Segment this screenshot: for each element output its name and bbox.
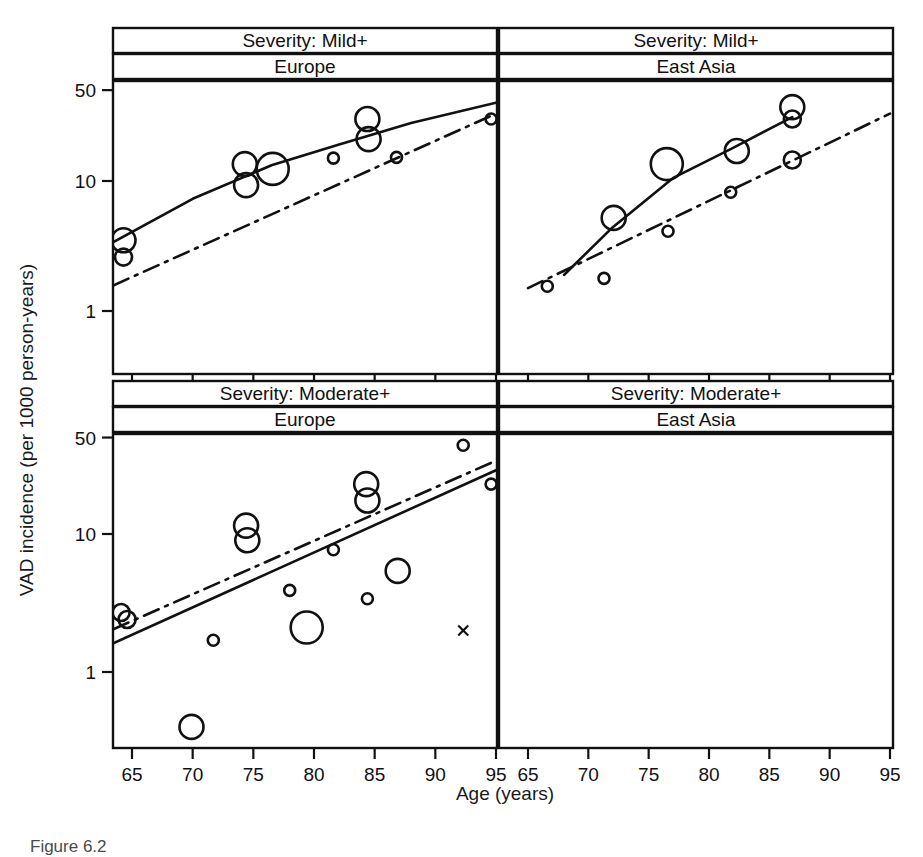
panel-moderate-europe: Severity: Moderate+Europe657075808590951… — [75, 381, 507, 785]
x-tick-label: 95 — [485, 764, 506, 785]
plot-content — [528, 95, 890, 292]
x-axis-title: Age (years) — [456, 783, 554, 804]
data-point-bubble — [651, 148, 683, 180]
fitted-incidence-line — [114, 103, 496, 242]
data-point-bubble — [180, 715, 204, 739]
figure-caption: Figure 6.2 — [30, 837, 107, 856]
data-point-bubble — [386, 559, 410, 583]
strip-severity-label: Severity: Mild+ — [242, 30, 367, 51]
chart-svg: Severity: Mild+Europe11050Severity: Mild… — [0, 0, 923, 857]
x-tick-label: 90 — [425, 764, 446, 785]
plot-frame — [113, 434, 497, 748]
panel-mild-east-asia: Severity: Mild+East Asia — [499, 28, 893, 382]
x-tick-label: 85 — [364, 764, 385, 785]
strip-severity-label: Severity: Moderate+ — [220, 383, 391, 404]
strip-region-label: East Asia — [656, 409, 736, 430]
data-point-bubble — [458, 440, 469, 451]
plot-frame — [499, 434, 893, 748]
reference-trend-line — [528, 114, 890, 289]
data-point-bubble — [328, 153, 339, 164]
fitted-incidence-line — [114, 470, 496, 643]
x-tick-label: 90 — [819, 764, 840, 785]
x-tick-label: 65 — [121, 764, 142, 785]
data-point-bubble — [355, 489, 379, 513]
data-point-bubble — [486, 114, 497, 125]
data-point-xmark — [458, 625, 468, 635]
data-point-bubble — [663, 226, 674, 237]
chart-layer: Severity: Mild+Europe11050Severity: Mild… — [16, 28, 901, 856]
y-tick-label: 50 — [75, 80, 96, 101]
reference-trend-line — [114, 114, 496, 286]
strip-region-label: Europe — [274, 56, 335, 77]
data-point-bubble — [291, 612, 323, 644]
strip-region-label: Europe — [274, 409, 335, 430]
x-tick-label: 80 — [698, 764, 719, 785]
x-tick-label: 65 — [517, 764, 538, 785]
plot-frame — [113, 81, 497, 374]
panel-mild-europe: Severity: Mild+Europe11050 — [75, 28, 497, 382]
data-point-bubble — [542, 281, 553, 292]
y-tick-label: 50 — [75, 428, 96, 449]
plot-frame — [499, 81, 893, 374]
x-tick-label: 70 — [182, 764, 203, 785]
y-tick-label: 10 — [75, 524, 96, 545]
plot-content — [113, 440, 497, 739]
data-point-bubble — [599, 273, 610, 284]
data-point-bubble — [486, 479, 497, 490]
strip-severity-label: Severity: Mild+ — [633, 30, 758, 51]
data-point-bubble — [235, 528, 259, 552]
panel-moderate-east-asia: Severity: Moderate+East Asia657075808590… — [499, 381, 901, 785]
y-tick-label: 1 — [85, 662, 96, 683]
strip-region-label: East Asia — [656, 56, 736, 77]
y-tick-label: 10 — [75, 171, 96, 192]
fitted-incidence-line — [564, 117, 792, 275]
data-point-bubble — [328, 544, 339, 555]
x-tick-label: 70 — [578, 764, 599, 785]
data-point-bubble — [208, 635, 219, 646]
x-tick-label: 75 — [243, 764, 264, 785]
strip-severity-label: Severity: Moderate+ — [611, 383, 782, 404]
plot-content — [112, 103, 497, 286]
x-tick-label: 80 — [303, 764, 324, 785]
x-tick-label: 95 — [879, 764, 900, 785]
reference-trend-line — [114, 461, 496, 629]
data-point-bubble — [362, 593, 373, 604]
y-tick-label: 1 — [85, 301, 96, 322]
y-axis-title: VAD incidence (per 1000 person-years) — [16, 264, 37, 596]
x-tick-label: 75 — [638, 764, 659, 785]
data-point-bubble — [784, 152, 801, 169]
x-tick-label: 85 — [759, 764, 780, 785]
figure-container: Severity: Mild+Europe11050Severity: Mild… — [0, 0, 923, 857]
data-point-bubble — [284, 585, 295, 596]
